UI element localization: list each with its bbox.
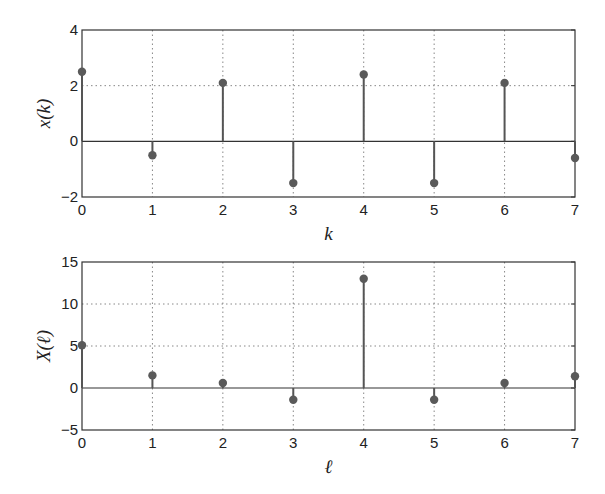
stem-marker xyxy=(430,179,438,187)
axes-box xyxy=(82,30,575,197)
x-tick-label: 0 xyxy=(78,201,86,218)
x-axis-label: ℓ xyxy=(325,456,333,477)
y-axis-label: x(k) xyxy=(33,99,55,130)
grid-lines xyxy=(82,30,575,197)
x-tick-label: 1 xyxy=(148,434,156,451)
stem-marker xyxy=(219,379,227,387)
stem-marker xyxy=(219,79,227,87)
x-tick-label: 1 xyxy=(148,201,156,218)
x-tick-label: 4 xyxy=(360,434,368,451)
stem-marker xyxy=(148,371,156,379)
stem-plot-2: 01234567−5051015ℓX(ℓ) xyxy=(33,253,579,477)
figure: 01234567−2024kx(k)01234567−5051015ℓX(ℓ) xyxy=(0,0,605,494)
y-tick-label: −2 xyxy=(61,188,78,205)
stem-marker xyxy=(289,396,297,404)
x-tick-label: 5 xyxy=(430,434,438,451)
y-tick-label: 0 xyxy=(70,132,78,149)
stem-plot-1: 01234567−2024kx(k) xyxy=(33,21,579,244)
stem-marker xyxy=(571,372,579,380)
x-axis-label: k xyxy=(324,223,333,244)
y-tick-label: 0 xyxy=(70,379,78,396)
x-tick-label: 5 xyxy=(430,201,438,218)
y-axis-label: X(ℓ) xyxy=(33,330,55,363)
stem-marker xyxy=(430,396,438,404)
x-tick-label: 7 xyxy=(571,201,579,218)
x-tick-label: 4 xyxy=(360,201,368,218)
stem-marker xyxy=(360,70,368,78)
stem-marker xyxy=(571,154,579,162)
y-tick-label: 15 xyxy=(61,253,78,270)
x-tick-label: 3 xyxy=(289,201,297,218)
stem-marker xyxy=(148,151,156,159)
stem-marker xyxy=(500,79,508,87)
y-tick-label: 10 xyxy=(61,295,78,312)
x-tick-label: 2 xyxy=(219,434,227,451)
stem-marker xyxy=(360,275,368,283)
y-tick-label: −5 xyxy=(61,421,78,438)
stem-marker xyxy=(500,379,508,387)
y-tick-label: 2 xyxy=(70,77,78,94)
y-tick-label: 5 xyxy=(70,337,78,354)
y-tick-label: 4 xyxy=(70,21,78,38)
stem-marker xyxy=(78,341,86,349)
stem-marker xyxy=(78,68,86,76)
x-tick-label: 0 xyxy=(78,434,86,451)
x-tick-label: 2 xyxy=(219,201,227,218)
x-tick-label: 7 xyxy=(571,434,579,451)
stem-marker xyxy=(289,179,297,187)
grid-lines xyxy=(82,262,575,430)
x-tick-label: 3 xyxy=(289,434,297,451)
x-tick-label: 6 xyxy=(500,434,508,451)
x-tick-label: 6 xyxy=(500,201,508,218)
